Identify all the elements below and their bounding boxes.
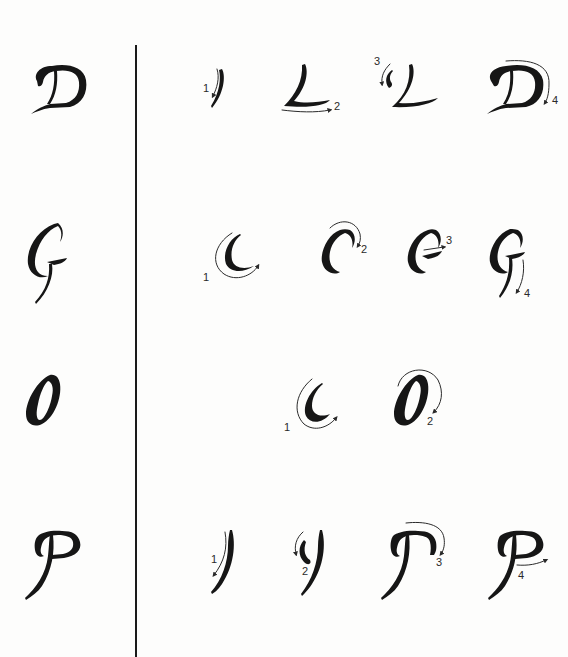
row-letter-p: 1 2 3 4 [25, 522, 546, 600]
d-step-3: 3 [374, 55, 438, 107]
g-step-2: 2 [322, 222, 367, 274]
p-step-3: 3 [381, 522, 444, 600]
o-step-2: 2 [394, 370, 441, 427]
p-step-1: 1 [211, 530, 234, 594]
d-step-1: 1 [203, 69, 224, 108]
svg-text:1: 1 [284, 421, 290, 433]
svg-text:3: 3 [446, 234, 452, 246]
svg-text:2: 2 [361, 243, 367, 255]
p-step-2: 2 [295, 530, 324, 596]
finished-letter-d [31, 65, 86, 114]
svg-text:4: 4 [518, 569, 524, 581]
d-step-2: 2 [282, 64, 340, 112]
row-letter-g: 1 2 3 4 [28, 222, 530, 304]
finished-letter-o [26, 375, 60, 426]
finished-letter-g [28, 223, 67, 304]
row-letter-d: 1 2 3 4 [31, 55, 558, 114]
svg-text:1: 1 [203, 82, 209, 94]
svg-text:3: 3 [436, 556, 442, 568]
svg-text:4: 4 [552, 94, 558, 106]
svg-text:2: 2 [334, 100, 340, 112]
p-step-4: 4 [488, 531, 546, 600]
o-step-1: 1 [284, 379, 336, 433]
stroke-order-diagram: 1 2 3 4 1 [0, 0, 568, 657]
g-step-3: 3 [408, 229, 452, 273]
svg-text:2: 2 [302, 565, 308, 577]
d-step-4: 4 [487, 61, 558, 114]
finished-letter-p [25, 531, 80, 600]
svg-text:1: 1 [203, 271, 209, 283]
g-step-4: 4 [490, 229, 530, 299]
svg-text:4: 4 [524, 287, 530, 299]
g-step-1: 1 [203, 233, 258, 283]
row-letter-o: 1 2 [26, 370, 441, 433]
svg-text:2: 2 [427, 415, 433, 427]
svg-text:1: 1 [211, 553, 217, 565]
svg-text:3: 3 [374, 55, 380, 67]
